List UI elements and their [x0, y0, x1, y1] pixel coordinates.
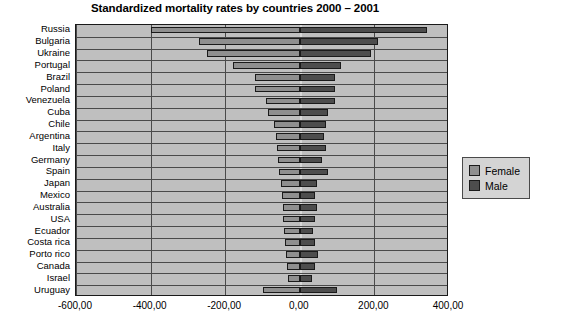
- bar-female: [255, 86, 300, 93]
- category-label: Porto rico: [29, 249, 70, 260]
- legend-item-female[interactable]: Female: [469, 163, 520, 178]
- category-label: Israel: [47, 273, 70, 284]
- bar-female: [274, 121, 300, 128]
- bar-male: [300, 62, 341, 69]
- category-label: Venezuela: [26, 95, 70, 106]
- bar-female: [281, 180, 300, 187]
- x-tick-label: -200,00: [207, 300, 241, 311]
- category-label: Cuba: [47, 107, 70, 118]
- category-label: Portugal: [35, 60, 70, 71]
- bar-female: [283, 204, 300, 211]
- bar-male: [300, 239, 315, 246]
- bar-row: [76, 285, 447, 296]
- bar-male: [300, 27, 427, 34]
- bar-female: [279, 169, 300, 176]
- category-label: Japan: [44, 178, 70, 189]
- x-tick-label: 200,00: [358, 300, 389, 311]
- bar-female: [263, 287, 300, 294]
- bar-row: [76, 202, 447, 214]
- bar-male: [300, 50, 371, 57]
- bar-female: [284, 228, 300, 235]
- bar-male: [300, 133, 324, 140]
- bar-row: [76, 179, 447, 191]
- legend-label: Female: [485, 165, 520, 177]
- bar-female: [278, 157, 300, 164]
- bar-female: [277, 145, 299, 152]
- bar-male: [300, 275, 312, 282]
- category-label: Argentina: [29, 131, 70, 142]
- legend-label: Male: [485, 180, 508, 192]
- chart-legend: FemaleMale: [462, 157, 530, 199]
- chart-title: Standardized mortality rates by countrie…: [0, 2, 470, 14]
- bar-row: [76, 155, 447, 167]
- legend-swatch-icon: [469, 180, 480, 191]
- category-label: Poland: [40, 84, 70, 95]
- bar-row: [76, 191, 447, 203]
- bar-row: [76, 72, 447, 84]
- bar-row: [76, 108, 447, 120]
- bar-row: [76, 143, 447, 155]
- category-label: Spain: [46, 166, 70, 177]
- bar-row: [76, 84, 447, 96]
- bar-row: [76, 131, 447, 143]
- legend-item-male[interactable]: Male: [469, 178, 520, 193]
- bar-row: [76, 214, 447, 226]
- bar-row: [76, 238, 447, 250]
- bar-row: [76, 262, 447, 274]
- category-label: Ecuador: [35, 226, 70, 237]
- chart-figure: Standardized mortality rates by countrie…: [0, 0, 564, 329]
- bar-male: [300, 192, 315, 199]
- bar-female: [233, 62, 300, 69]
- category-label: Canada: [37, 261, 70, 272]
- bar-female: [266, 98, 300, 105]
- category-label: Mexico: [40, 190, 70, 201]
- category-label: Ukraine: [37, 48, 70, 59]
- bar-male: [300, 121, 326, 128]
- bar-female: [283, 216, 300, 223]
- bar-male: [300, 38, 378, 45]
- category-axis-labels: RussiaBulgariaUkrainePortugalBrazilPolan…: [0, 24, 72, 296]
- bar-female: [199, 38, 300, 45]
- bar-male: [300, 228, 313, 235]
- bar-male: [300, 216, 315, 223]
- bar-female: [276, 133, 300, 140]
- bar-female: [288, 275, 300, 282]
- bar-row: [76, 273, 447, 285]
- bar-male: [300, 169, 328, 176]
- bar-row: [76, 60, 447, 72]
- bar-male: [300, 251, 319, 258]
- category-label: Italy: [53, 143, 70, 154]
- category-label: Australia: [33, 202, 70, 213]
- bar-male: [300, 287, 337, 294]
- x-tick-label: -400,00: [133, 300, 167, 311]
- bar-male: [300, 145, 326, 152]
- x-tick-label: -600,00: [58, 300, 92, 311]
- bar-male: [300, 86, 335, 93]
- plot-area: [75, 24, 448, 296]
- bar-female: [207, 50, 300, 57]
- bar-female: [268, 109, 300, 116]
- category-label: Costa rica: [27, 237, 70, 248]
- bar-male: [300, 74, 335, 81]
- category-label: USA: [50, 214, 70, 225]
- category-label: Brazil: [46, 72, 70, 83]
- bar-row: [76, 49, 447, 61]
- x-tick-label: 400,00: [433, 300, 464, 311]
- bar-row: [76, 96, 447, 108]
- bar-male: [300, 157, 322, 164]
- bar-row: [76, 250, 447, 262]
- category-label: Germany: [31, 155, 70, 166]
- value-axis-labels: -600,00-400,00-200,000,00200,00400,00: [0, 300, 564, 318]
- bar-row: [76, 167, 447, 179]
- bar-male: [300, 180, 317, 187]
- bar-male: [300, 204, 317, 211]
- bar-male: [300, 109, 328, 116]
- bar-female: [255, 74, 300, 81]
- bar-male: [300, 263, 315, 270]
- category-label: Chile: [48, 119, 70, 130]
- category-label: Russia: [41, 24, 70, 35]
- legend-swatch-icon: [469, 165, 480, 176]
- category-label: Uruguay: [34, 285, 70, 296]
- bar-row: [76, 25, 447, 37]
- bar-male: [300, 98, 335, 105]
